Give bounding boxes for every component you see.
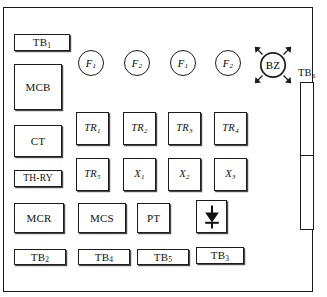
component-fuse-f1-a-sub: 1 [92,62,96,70]
component-tb5-label: TB5 [154,252,172,263]
component-tb3: TB3 [196,247,244,264]
component-mcb-label: MCB [25,82,50,93]
component-tb2-sub: 2 [45,255,49,264]
component-tr2: TR2 [123,112,156,145]
component-mcb: MCB [14,64,62,110]
component-tb2-label: TB2 [31,252,49,263]
component-tr1-sub: 1 [97,127,101,135]
component-x1-sub: 1 [141,173,145,181]
component-th-ry-label: TH-RY [23,174,53,184]
component-mcs-label: MCS [90,213,114,224]
component-tb2: TB2 [14,249,66,265]
component-fuse-f2-b: F2 [215,50,241,76]
component-x3-label: X3 [225,169,235,180]
panel-layout-diagram: TB1 MCB CT TH-RY MCR TB2 F1 F2 F1 F2 [0,0,327,297]
component-fuse-f1-b-sub: 1 [184,62,188,70]
component-tr2-label: TR2 [131,123,147,134]
component-tb5-sub: 5 [168,255,172,264]
component-pt-label: PT [147,213,160,224]
diode-icon [202,204,222,230]
component-tr5-sub: 5 [97,173,101,181]
component-fuse-f2-a: F2 [124,50,150,76]
component-tb3-sub: 3 [225,254,229,263]
component-x3: X3 [214,158,247,191]
component-tb1-label: TB1 [33,37,51,48]
component-tb6-label: TB6 [298,67,316,78]
component-tr5-label: TR5 [84,169,100,180]
component-tb6-sub: 6 [312,72,316,80]
component-mcr: MCR [14,203,64,233]
component-tr1: TR1 [76,112,109,145]
component-tb3-label: TB3 [211,250,229,261]
component-ct: CT [14,125,62,157]
component-th-ry: TH-RY [14,170,62,187]
component-tr2-sub: 2 [144,127,148,135]
component-mcr-label: MCR [26,213,51,224]
component-tb1: TB1 [14,34,70,51]
component-pt: PT [137,203,170,233]
component-mcs: MCS [78,203,126,233]
component-x2: X2 [168,158,201,191]
component-fuse-f1-a: F1 [78,50,104,76]
component-tr4-sub: 4 [235,127,239,135]
component-tr4-label: TR4 [222,123,238,134]
component-buzzer-group: BZ [252,44,294,86]
component-x1: X1 [123,158,156,191]
tb6-segment-divider [301,155,313,156]
component-ct-label: CT [31,136,45,147]
component-x3-sub: 3 [232,173,236,181]
component-tr4: TR4 [214,112,247,145]
component-tb4-sub: 4 [109,255,113,264]
component-fuse-f1-a-label: F1 [86,58,96,69]
component-x1-label: X1 [134,169,144,180]
component-fuse-f2-b-sub: 2 [229,62,233,70]
component-tr3-label: TR3 [176,123,192,134]
component-diode [196,200,227,233]
component-x2-label: X2 [179,169,189,180]
component-tb4-label: TB4 [95,252,113,263]
component-fuse-f1-b-label: F1 [178,58,188,69]
component-buzzer-label: BZ [252,44,294,86]
component-tr5: TR5 [76,158,109,191]
component-tb5: TB5 [137,249,189,265]
component-fuse-f2-a-label: F2 [132,58,142,69]
component-tb1-sub: 1 [47,41,51,50]
component-tr1-label: TR1 [84,123,100,134]
component-fuse-f2-a-sub: 2 [138,62,142,70]
component-fuse-f2-b-label: F2 [223,58,233,69]
component-x2-sub: 2 [186,173,190,181]
component-tb6-strip [300,82,314,230]
component-tr3-sub: 3 [189,127,193,135]
component-tr3: TR3 [168,112,201,145]
component-fuse-f1-b: F1 [170,50,196,76]
component-tb4: TB4 [78,249,130,265]
